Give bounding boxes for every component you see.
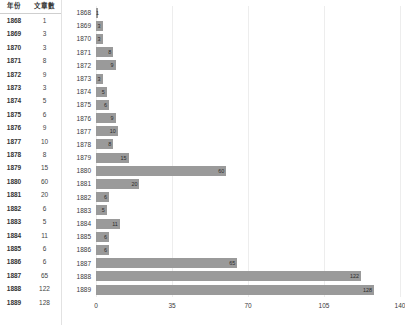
table-cell-count: 65 [28, 269, 61, 282]
table-cell-count: 10 [28, 135, 61, 148]
table-header-year: 年份 [0, 0, 28, 14]
bar-value-label: 5 [96, 87, 107, 97]
bar-row: 187915 [62, 151, 400, 164]
table-row: 18681 [0, 14, 61, 28]
bar-track: 11 [96, 217, 400, 230]
bar-track: 65 [96, 257, 400, 270]
table-cell-year: 1875 [0, 108, 28, 121]
table-row: 188060 [0, 175, 61, 188]
table-cell-count: 1 [28, 14, 61, 28]
bar-value-label: 128 [96, 285, 374, 295]
table-cell-count: 9 [28, 68, 61, 81]
table-cell-count: 6 [28, 108, 61, 121]
bar-value-label: 8 [96, 47, 113, 57]
bar-category-label: 1886 [62, 243, 96, 256]
bar-row: 18681 [62, 6, 400, 19]
bar-track: 60 [96, 164, 400, 177]
table-cell-count: 8 [28, 54, 61, 67]
bar-value-label: 3 [96, 74, 103, 84]
table-row: 18835 [0, 215, 61, 228]
bar-value-label: 20 [96, 179, 139, 189]
table-row: 187710 [0, 135, 61, 148]
bar-value-label: 11 [96, 219, 120, 229]
bar-category-label: 1885 [62, 230, 96, 243]
bar-row: 18769 [62, 112, 400, 125]
bar-value-label: 3 [96, 21, 103, 31]
bar-row: 18733 [62, 72, 400, 85]
table-cell-year: 1886 [0, 255, 28, 268]
table-cell-year: 1876 [0, 121, 28, 134]
x-axis-tick-label: 140 [395, 302, 405, 309]
table-header-row: 年份 文章數 [0, 0, 61, 14]
data-table-panel: 年份 文章數 186811869318703187181872918733187… [0, 0, 62, 325]
table-cell-count: 60 [28, 175, 61, 188]
table-row: 188411 [0, 229, 61, 242]
bar-row: 18745 [62, 85, 400, 98]
bar-row: 187710 [62, 125, 400, 138]
bar-row: 1889128 [62, 283, 400, 296]
bar-row: 18835 [62, 204, 400, 217]
chart-plot-area: 1868118693187031871818729187331874518756… [62, 6, 400, 296]
bar-value-label: 6 [96, 100, 109, 110]
bar-value-label: 122 [96, 271, 361, 281]
bar-category-label: 1872 [62, 59, 96, 72]
bar-row: 188120 [62, 177, 400, 190]
table-row: 18703 [0, 41, 61, 54]
bar-row: 18856 [62, 230, 400, 243]
bar-category-label: 1884 [62, 217, 96, 230]
bar-category-label: 1877 [62, 125, 96, 138]
x-axis: 03570105140 [96, 299, 400, 319]
bar-category-label: 1879 [62, 151, 96, 164]
bar-row: 18729 [62, 59, 400, 72]
bar-category-label: 1888 [62, 270, 96, 283]
bar-row: 18826 [62, 191, 400, 204]
table-row: 18745 [0, 94, 61, 107]
bar-category-label: 1876 [62, 112, 96, 125]
bar-category-label: 1874 [62, 85, 96, 98]
table-cell-count: 20 [28, 188, 61, 201]
bar-track: 5 [96, 204, 400, 217]
bar-track: 3 [96, 19, 400, 32]
table-row: 18856 [0, 242, 61, 255]
table-cell-count: 9 [28, 121, 61, 134]
bar-value-label: 6 [96, 232, 109, 242]
bar-category-label: 1870 [62, 32, 96, 45]
bar-row: 188411 [62, 217, 400, 230]
table-cell-year: 1877 [0, 135, 28, 148]
table-cell-year: 1878 [0, 148, 28, 161]
table-cell-year: 1880 [0, 175, 28, 188]
table-cell-count: 3 [28, 81, 61, 94]
bar-track: 128 [96, 283, 400, 296]
table-cell-count: 5 [28, 215, 61, 228]
bar-category-label: 1883 [62, 204, 96, 217]
bar-track: 122 [96, 270, 400, 283]
bar-track: 6 [96, 98, 400, 111]
bar-category-label: 1880 [62, 164, 96, 177]
table-cell-year: 1872 [0, 68, 28, 81]
bar-value-label: 9 [96, 113, 116, 123]
bar-value-label: 60 [96, 166, 226, 176]
bar-track: 1 [96, 6, 400, 19]
bar-category-label: 1887 [62, 257, 96, 270]
bar-track: 10 [96, 125, 400, 138]
table-cell-year: 1881 [0, 188, 28, 201]
table-cell-count: 6 [28, 202, 61, 215]
table-cell-year: 1882 [0, 202, 28, 215]
bar-chart: 1868118693187031871818729187331874518756… [62, 0, 400, 325]
year-article-table: 年份 文章數 186811869318703187181872918733187… [0, 0, 61, 309]
bar-track: 8 [96, 138, 400, 151]
table-cell-year: 1874 [0, 94, 28, 107]
bar-value-label: 1 [96, 8, 98, 18]
bar-row: 18718 [62, 46, 400, 59]
table-cell-year: 1885 [0, 242, 28, 255]
table-body: 1868118693187031871818729187331874518756… [0, 14, 61, 309]
x-axis-tick-label: 70 [244, 302, 251, 309]
bar-track: 9 [96, 59, 400, 72]
table-cell-year: 1889 [0, 296, 28, 309]
bar-value-label: 3 [96, 34, 103, 44]
bar-row: 1888122 [62, 270, 400, 283]
bar-track: 20 [96, 177, 400, 190]
bar-row: 18788 [62, 138, 400, 151]
table-cell-count: 128 [28, 296, 61, 309]
